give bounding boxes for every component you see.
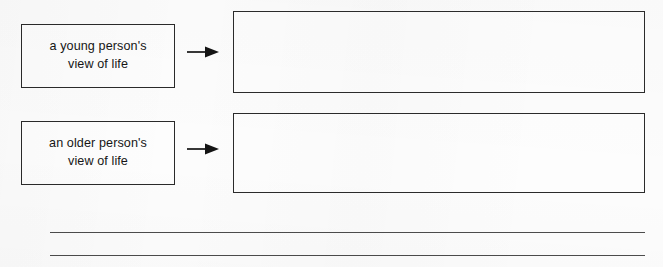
prompt-box-older-person: an older person's view of life: [21, 121, 175, 185]
writing-line[interactable]: [50, 255, 645, 256]
answer-box-young-person[interactable]: [233, 11, 645, 93]
right-arrow-icon: [187, 45, 219, 59]
writing-line[interactable]: [50, 232, 645, 233]
prompt-label: an older person's view of life: [41, 135, 155, 171]
prompt-label: a young person's view of life: [41, 38, 154, 74]
right-arrow-icon: [187, 142, 219, 156]
worksheet-page: a young person's view of life an older p…: [0, 0, 663, 267]
prompt-box-young-person: a young person's view of life: [21, 24, 175, 88]
answer-box-older-person[interactable]: [233, 113, 645, 193]
